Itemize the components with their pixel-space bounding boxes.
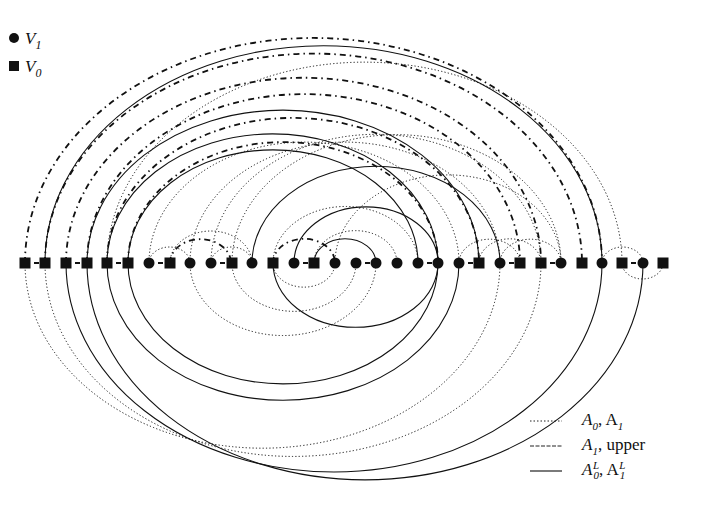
diagram-svg: V1 V0 A0, A1 A1, upper A0L, A1L: [0, 0, 709, 513]
v0-node: [268, 258, 279, 269]
v1-node: [185, 258, 196, 269]
v0-node: [309, 258, 320, 269]
upper-dashed-arc: [273, 239, 335, 263]
v0-node: [536, 258, 547, 269]
v1-node: [495, 258, 506, 269]
v1-node: [247, 258, 258, 269]
lower-solid-arc: [87, 263, 643, 480]
arc-diagram: V1 V0 A0, A1 A1, upper A0L, A1L: [0, 0, 709, 513]
lower-solid-arc: [66, 263, 602, 472]
lower-dotted-arc: [45, 263, 541, 456]
v0-node: [474, 258, 485, 269]
upper-dotted-arcs: [107, 62, 643, 263]
upper-solid-arc: [107, 134, 438, 263]
v1-node: [351, 258, 362, 269]
v0-node: [82, 258, 93, 269]
upper-solid-arcs: [45, 46, 602, 263]
lower-dotted-arc: [273, 263, 335, 287]
v1-node: [371, 258, 382, 269]
upper-dotted-arc: [107, 62, 622, 263]
v1-node: [392, 258, 403, 269]
lower-dotted-arc: [232, 263, 356, 311]
v0-node: [61, 258, 72, 269]
upper-dotted-arc: [190, 142, 500, 263]
upper-dotted-arc: [500, 239, 561, 263]
upper-dotted-arc: [232, 135, 561, 263]
node-legend-v1: V1: [25, 29, 41, 52]
upper-dotted-arc: [459, 239, 520, 263]
v0-node: [658, 258, 669, 269]
upper-dashed-arc: [170, 239, 231, 263]
v0-node: [515, 258, 526, 269]
circle-node-icon: [9, 33, 19, 43]
v0-node: [165, 258, 176, 269]
node-legend: V1 V0: [9, 29, 41, 80]
v0-node: [123, 258, 134, 269]
upper-dashed-arcs: [25, 38, 602, 263]
v1-node: [144, 258, 155, 269]
v0-node: [227, 258, 238, 269]
v1-node: [289, 258, 300, 269]
upper-dashed-arc: [45, 54, 582, 263]
v1-node: [597, 258, 608, 269]
lower-dotted-arc: [190, 263, 376, 336]
lower-dotted-arcs: [25, 263, 663, 456]
lower-solid-arc: [273, 263, 438, 327]
legend-a0-a1: A0, A1: [581, 410, 623, 432]
lower-solid-arcs: [66, 263, 643, 480]
v1-node: [206, 258, 217, 269]
upper-dotted-arc: [335, 175, 561, 263]
v1-node: [330, 258, 341, 269]
v0-node: [102, 258, 113, 269]
v1-node: [556, 258, 567, 269]
v0-node: [20, 258, 31, 269]
upper-solid-arc: [87, 110, 479, 263]
upper-solid-arc: [314, 239, 376, 263]
upper-dotted-arc: [479, 239, 541, 263]
v1-node: [454, 258, 465, 269]
upper-solid-arc: [252, 166, 500, 263]
v1-node: [413, 258, 424, 269]
node-legend-v0: V0: [25, 57, 41, 80]
square-node-icon: [9, 61, 19, 71]
upper-solid-arc: [45, 46, 602, 263]
v0-node: [40, 258, 51, 269]
v1-node: [638, 258, 649, 269]
upper-solid-arc: [128, 150, 418, 263]
legend-a0l-a1l: A0L, A1L: [581, 459, 625, 481]
v1-node: [433, 258, 444, 269]
upper-dotted-arc: [149, 142, 459, 263]
v0-node: [617, 258, 628, 269]
v0-node: [577, 258, 588, 269]
lower-solid-arc: [107, 263, 459, 400]
legend-a1-upper: A1, upper: [581, 435, 645, 457]
lower-dotted-arc: [25, 263, 500, 448]
edge-legend: A0, A1 A1, upper A0L, A1L: [530, 410, 645, 481]
